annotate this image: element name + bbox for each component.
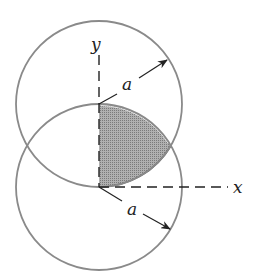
lower-radius-arrow [143, 214, 170, 229]
upper-radius-label: a [122, 74, 132, 94]
shaded-region [99, 104, 171, 187]
y-axis-label: y [90, 34, 101, 54]
lower-radius-label: a [127, 199, 137, 219]
two-circles-diagram: y x a a [0, 0, 256, 280]
upper-radius-arrow-tail [99, 94, 117, 104]
lower-radius-arrow-tail [99, 187, 122, 201]
x-axis-label: x [233, 177, 243, 197]
upper-radius-arrow [139, 60, 167, 78]
